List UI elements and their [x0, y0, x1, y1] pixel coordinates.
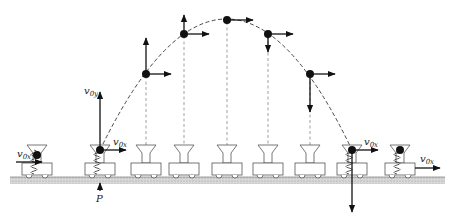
ground-track: [10, 177, 445, 184]
projectile-diagram: v0x v0y v0x v0x v0x P: [0, 0, 449, 216]
label-v0x-right: v0x: [420, 153, 434, 166]
label-v0x-launch: v0x: [113, 136, 127, 149]
label-v0x-left: v0x: [17, 148, 31, 161]
trajectory-curve: [100, 19, 352, 150]
label-point-p: P: [95, 193, 103, 204]
label-v0y: v0y: [84, 85, 99, 98]
label-v0x-catch: v0x: [364, 136, 378, 149]
